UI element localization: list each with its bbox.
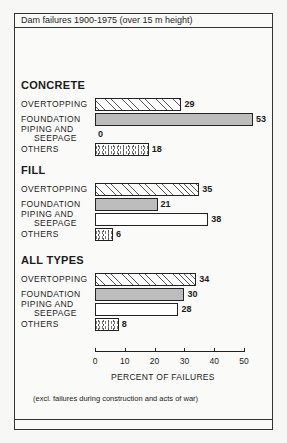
axis-tick xyxy=(214,348,215,352)
category-label: PIPING ANDSEEPAGE xyxy=(21,300,77,318)
category-label: PIPING ANDSEEPAGE xyxy=(21,125,77,143)
x-axis xyxy=(95,351,244,352)
bar xyxy=(95,143,149,156)
axis-tick-label: 30 xyxy=(180,356,189,366)
bar-value-label: 30 xyxy=(187,289,197,299)
axis-tick-label: 50 xyxy=(239,356,248,366)
category-label-line1: FOUNDATION xyxy=(21,289,81,299)
bar xyxy=(95,228,113,241)
axis-tick-label: 0 xyxy=(93,356,98,366)
category-label: PIPING ANDSEEPAGE xyxy=(21,210,77,228)
category-label: FOUNDATION xyxy=(21,290,81,299)
category-label-line1: OVERTOPPING xyxy=(21,274,87,284)
axis-tick xyxy=(125,348,126,352)
group-heading: CONCRETE xyxy=(21,79,85,91)
category-label-line1: OVERTOPPING xyxy=(21,184,87,194)
bar xyxy=(95,213,208,226)
category-label: FOUNDATION xyxy=(21,200,81,209)
category-label: OVERTOPPING xyxy=(21,275,87,284)
bar xyxy=(95,273,196,286)
bar-value-label: 6 xyxy=(116,229,121,239)
group-heading: FILL xyxy=(21,164,45,176)
category-label-line2: SEEPAGE xyxy=(21,134,77,143)
category-label: FOUNDATION xyxy=(21,115,81,124)
bar xyxy=(95,183,199,196)
bar-value-label: 35 xyxy=(202,184,212,194)
bar xyxy=(95,198,158,211)
bar xyxy=(95,288,184,301)
category-label-line2: SEEPAGE xyxy=(21,219,77,228)
axis-tick xyxy=(244,348,245,352)
axis-tick-label: 20 xyxy=(150,356,159,366)
axis-tick-label: 10 xyxy=(120,356,129,366)
bar-value-label: 18 xyxy=(152,144,162,154)
axis-tick xyxy=(155,348,156,352)
bar-value-label: 29 xyxy=(184,99,194,109)
bar-value-label: 53 xyxy=(256,114,266,124)
category-label: OVERTOPPING xyxy=(21,100,87,109)
footnote: (excl. failures during construction and … xyxy=(33,394,198,403)
bar-value-label: 0 xyxy=(98,129,103,139)
bar-value-label: 34 xyxy=(199,274,209,284)
category-label-line2: SEEPAGE xyxy=(21,309,77,318)
bar-value-label: 28 xyxy=(181,304,191,314)
category-label-line1: FOUNDATION xyxy=(21,199,81,209)
category-label-line1: OTHERS xyxy=(21,319,59,329)
footer-divider xyxy=(15,419,272,420)
bar xyxy=(95,98,181,111)
category-label: OVERTOPPING xyxy=(21,185,87,194)
category-label: OTHERS xyxy=(21,230,59,239)
axis-tick xyxy=(184,348,185,352)
category-label-line1: OTHERS xyxy=(21,229,59,239)
bar-value-label: 38 xyxy=(211,214,221,224)
chart-title: Dam failures 1900-1975 (over 15 m height… xyxy=(15,14,272,28)
bar xyxy=(95,113,253,126)
chart-frame: Dam failures 1900-1975 (over 15 m height… xyxy=(14,13,273,430)
category-label: OTHERS xyxy=(21,145,59,154)
bar xyxy=(95,303,178,316)
group-heading: ALL TYPES xyxy=(21,254,84,266)
category-label-line1: FOUNDATION xyxy=(21,114,81,124)
category-label-line1: OTHERS xyxy=(21,144,59,154)
category-label: OTHERS xyxy=(21,320,59,329)
category-label-line1: OVERTOPPING xyxy=(21,99,87,109)
bar-value-label: 21 xyxy=(161,199,171,209)
axis-tick-label: 40 xyxy=(209,356,218,366)
bar-value-label: 8 xyxy=(122,319,127,329)
axis-tick xyxy=(95,348,96,352)
bar xyxy=(95,318,119,331)
x-axis-label: PERCENT OF FAILURES xyxy=(111,372,215,382)
